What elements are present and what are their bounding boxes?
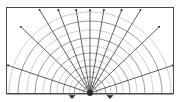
source-dot [87, 90, 93, 96]
receiver-left [69, 95, 75, 99]
point-source-marker [87, 90, 93, 96]
figure-container [0, 0, 180, 102]
wavefront-ray-diagram [0, 0, 180, 102]
receiver-right [107, 95, 113, 99]
